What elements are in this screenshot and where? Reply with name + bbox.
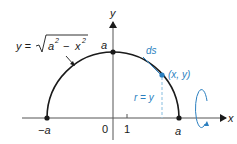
equation-a-exp: 2: [54, 37, 59, 44]
radius-label: r = y: [134, 92, 155, 103]
top-a-label: a: [101, 39, 107, 51]
ds-label: ds: [146, 45, 157, 56]
neg-a-label: −a: [38, 124, 51, 136]
equation-minus: −: [63, 40, 69, 52]
equation-x: x: [74, 40, 81, 52]
point-xy-label: (x, y): [168, 69, 190, 80]
semicircle-surface-of-revolution-diagram: y x 0 1 −a a a (x, y) ds r = y y = a 2 −…: [0, 0, 237, 144]
rotation-about-x-axis-icon: [195, 90, 209, 128]
point-xy: [159, 72, 164, 77]
equation-lhs: y =: [15, 40, 32, 52]
x-axis-label: x: [227, 112, 234, 124]
point-neg-a: [44, 115, 49, 120]
equation-x-exp: 2: [81, 37, 86, 44]
equation-a: a: [48, 40, 54, 52]
pos-a-label: a: [175, 125, 181, 137]
semicircle-equation: y = a 2 − x 2: [15, 35, 88, 52]
y-axis-label: y: [109, 7, 117, 19]
point-top-a: [110, 49, 115, 54]
origin-label: 0: [102, 123, 108, 135]
point-pos-a: [176, 115, 181, 120]
tick-one-label: 1: [124, 123, 130, 135]
